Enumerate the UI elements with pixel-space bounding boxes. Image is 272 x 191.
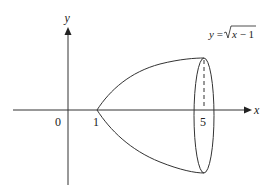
upper-curve — [97, 58, 204, 110]
svg-text:y =: y = — [208, 28, 223, 40]
y-axis-arrow-icon — [65, 27, 72, 35]
svg-text:x − 1: x − 1 — [231, 28, 254, 40]
y-axis-label: y — [64, 11, 71, 25]
origin-label: 0 — [55, 115, 61, 129]
x-axis-label: x — [253, 103, 260, 117]
tick-label-5: 5 — [200, 115, 206, 129]
x-axis-arrow-icon — [244, 107, 252, 114]
curve-equation: y = x − 1 — [208, 26, 256, 40]
tick-label-1: 1 — [93, 115, 99, 129]
solid-of-revolution-diagram: y x 0 1 5 y = x − 1 — [0, 0, 272, 191]
lower-curve — [97, 110, 204, 173]
